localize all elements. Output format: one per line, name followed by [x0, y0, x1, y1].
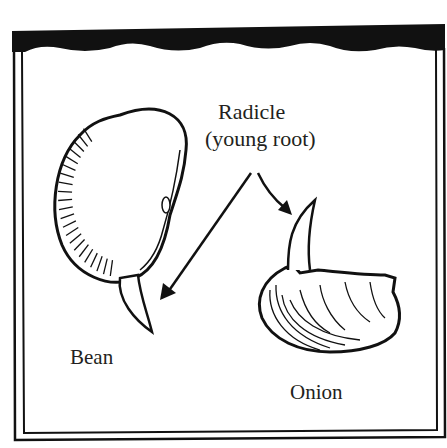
label-onion: Onion [290, 380, 343, 404]
onion-illustration [259, 200, 399, 352]
frame-top-band [12, 24, 445, 52]
bean-hilum [162, 197, 170, 213]
arrow-to-bean [168, 173, 251, 292]
bean-body [55, 109, 186, 282]
bean-illustration [55, 109, 186, 332]
arrow-to-onion [258, 173, 285, 208]
label-bean: Bean [70, 345, 114, 369]
onion-radicle [288, 200, 315, 270]
diagram-canvas: Radicle (young root) Bean Onion [0, 0, 447, 448]
label-young-root: (young root) [205, 126, 316, 151]
label-radicle: Radicle [218, 99, 285, 124]
bean-radicle [120, 275, 152, 332]
bean-hatch-line [58, 191, 72, 192]
